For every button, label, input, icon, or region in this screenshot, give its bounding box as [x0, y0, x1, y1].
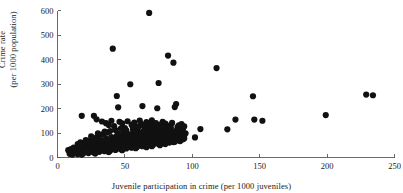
- svg-text:300: 300: [41, 79, 54, 89]
- svg-text:100: 100: [186, 161, 199, 171]
- svg-text:0: 0: [55, 161, 59, 171]
- y-axis-label-line-1: Crime rate: [0, 0, 8, 109]
- y-axis-label-line-2: (per 1000 population): [8, 0, 19, 109]
- chart-plot-area: 0501001502002500100200300400500600: [0, 0, 403, 193]
- svg-text:600: 600: [41, 6, 54, 16]
- scatter-chart-figure: 0501001502002500100200300400500600 Juven…: [0, 0, 403, 193]
- svg-text:150: 150: [253, 161, 266, 171]
- svg-text:50: 50: [121, 161, 130, 171]
- svg-text:250: 250: [388, 161, 401, 171]
- svg-text:100: 100: [41, 128, 54, 138]
- y-axis-label: Crime rate (per 1000 population): [0, 0, 19, 109]
- svg-text:400: 400: [41, 55, 54, 65]
- x-axis-label: Juvenile participation in crime (per 100…: [0, 181, 403, 191]
- chart-data-points: [65, 10, 376, 158]
- svg-text:200: 200: [41, 104, 54, 114]
- svg-text:500: 500: [41, 30, 54, 40]
- svg-text:0: 0: [49, 153, 53, 163]
- svg-text:200: 200: [321, 161, 334, 171]
